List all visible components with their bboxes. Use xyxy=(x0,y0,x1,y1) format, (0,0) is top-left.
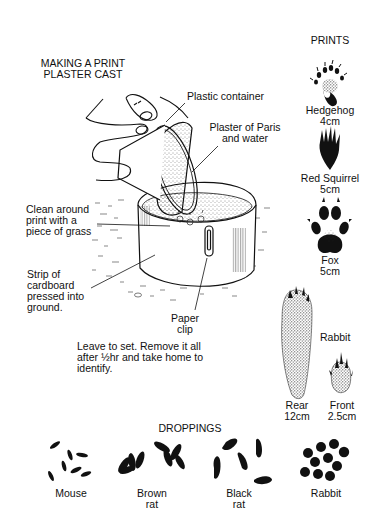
label-clean-line3: piece of grass xyxy=(26,226,91,237)
label-clean-around: Clean around print with a piece of grass xyxy=(26,204,91,237)
squirrel-caption: Red Squirrel 5cm xyxy=(290,173,368,195)
label-paper-clip: Paper clip xyxy=(160,313,210,335)
label-strip-line4: ground. xyxy=(27,302,84,313)
droppings-rabbit-label: Rabbit xyxy=(300,488,352,499)
droppings-caption-black-rat: Black rat xyxy=(214,488,264,510)
droppings-caption-mouse: Mouse xyxy=(46,488,96,499)
hedgehog-caption: Hedgehog 4cm xyxy=(300,105,360,127)
pouring-container xyxy=(118,121,206,220)
rabbit-rear-size: 12cm xyxy=(277,411,317,422)
label-plaster: Plaster of Paris and water xyxy=(204,122,286,144)
rabbit-front-size: 2.5cm xyxy=(320,411,364,422)
mouse-droppings-icon xyxy=(47,440,92,482)
label-plastic-container: Plastic container xyxy=(187,91,264,102)
droppings-heading: DROPPINGS xyxy=(150,423,230,434)
pebble xyxy=(135,293,142,297)
instructions-line3: identify. xyxy=(77,363,203,374)
fox-caption: Fox 5cm xyxy=(300,255,360,277)
prints-heading: PRINTS xyxy=(300,35,360,46)
cast-title: MAKING A PRINT PLASTER CAST xyxy=(36,58,130,80)
rabbit-droppings-icon xyxy=(300,439,349,481)
rabbit-rear-print-icon xyxy=(282,286,312,399)
fox-size: 5cm xyxy=(300,266,360,277)
droppings-brown-rat-line2: rat xyxy=(127,499,177,510)
rabbit-print-label: Rabbit xyxy=(320,332,350,343)
black-rat-droppings-icon xyxy=(214,438,272,484)
fox-print-icon xyxy=(307,197,352,253)
label-strip-cardboard: Strip of cardboard pressed into ground. xyxy=(27,269,84,313)
brown-rat-droppings-icon xyxy=(116,439,187,475)
instructions: Leave to set. Remove it all after ½hr an… xyxy=(77,341,203,374)
squirrel-size: 5cm xyxy=(290,184,368,195)
rabbit-front-print-icon xyxy=(329,352,353,393)
label-clip-line2: clip xyxy=(160,324,210,335)
hedgehog-size: 4cm xyxy=(300,116,360,127)
rabbit-rear-caption: Rear 12cm xyxy=(277,400,317,422)
squirrel-print-icon xyxy=(319,126,340,170)
hedgehog-print-icon xyxy=(310,60,347,106)
droppings-caption-brown-rat: Brown rat xyxy=(127,488,177,510)
droppings-mouse-label: Mouse xyxy=(46,488,96,499)
rabbit-front-caption: Front 2.5cm xyxy=(320,400,364,422)
cast-title-line2: PLASTER CAST xyxy=(36,69,130,80)
label-plaster-line2: and water xyxy=(204,133,286,144)
droppings-caption-rabbit: Rabbit xyxy=(300,488,352,499)
droppings-black-rat-line2: rat xyxy=(214,499,264,510)
